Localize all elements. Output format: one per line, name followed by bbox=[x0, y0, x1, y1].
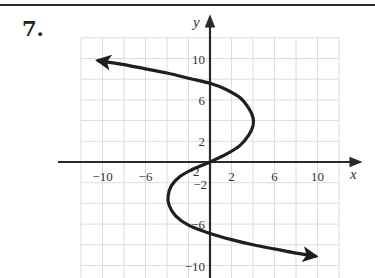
y-tick-label: −10 bbox=[185, 259, 205, 274]
x-tick-label: −10 bbox=[92, 169, 112, 184]
y-tick-label: −2 bbox=[193, 177, 207, 192]
y-tick-label: 2 bbox=[199, 134, 206, 149]
curve-line bbox=[98, 61, 315, 257]
y-tick-label: 10 bbox=[192, 52, 205, 67]
graph-figure: x y −10−6−226101062−2−6−10 bbox=[0, 0, 375, 278]
axes: x y bbox=[58, 14, 360, 278]
x-tick-label: 6 bbox=[271, 169, 278, 184]
x-tick-label: −6 bbox=[139, 169, 153, 184]
y-axis-label: y bbox=[191, 14, 200, 30]
x-tick-label: 10 bbox=[311, 169, 324, 184]
x-axis-label: x bbox=[349, 166, 357, 182]
y-tick-label: 6 bbox=[199, 93, 206, 108]
x-tick-label: 2 bbox=[228, 169, 235, 184]
